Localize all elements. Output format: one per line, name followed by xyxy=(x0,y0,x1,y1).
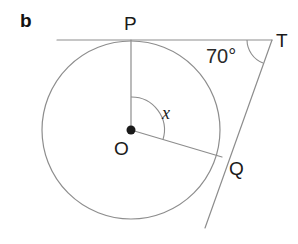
part-label: b xyxy=(20,10,32,31)
angle-label-x: x xyxy=(161,103,170,123)
point-label-q: Q xyxy=(229,158,244,179)
geometry-canvas: b P T Q O x 70° xyxy=(0,0,298,244)
radius-line-oq xyxy=(131,130,222,157)
angle-arc-at-t xyxy=(247,40,263,63)
angle-label-70-degrees: 70° xyxy=(206,45,236,67)
center-dot xyxy=(127,126,136,135)
angle-arc-at-o xyxy=(131,97,164,140)
tangent-line-tq xyxy=(205,40,272,228)
geometry-figure: b P T Q O x 70° xyxy=(0,0,298,244)
point-label-o: O xyxy=(114,138,129,159)
point-label-t: T xyxy=(276,30,288,51)
point-label-p: P xyxy=(124,13,137,34)
